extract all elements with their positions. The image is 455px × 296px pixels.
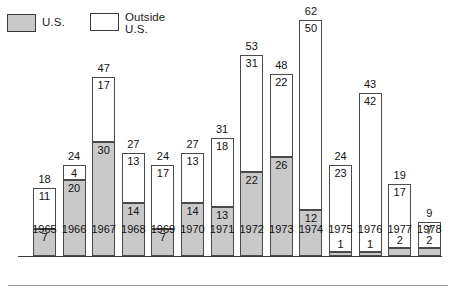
x-tick-label-1969: 1969 — [147, 224, 178, 235]
x-tick-label-1965: 1965 — [29, 224, 60, 235]
total-label-1977: 19 — [388, 170, 411, 181]
value-label-us-1968: 14 — [122, 206, 145, 217]
value-label-us-1978: 2 — [418, 235, 441, 246]
value-label-outside-us-1977: 17 — [388, 187, 411, 198]
segment-outside-us-1974 — [299, 20, 322, 210]
total-label-1968: 27 — [122, 139, 145, 150]
value-label-outside-us-1975: 23 — [329, 168, 352, 179]
x-tick-label-1968: 1968 — [118, 224, 149, 235]
value-label-us-1967: 30 — [92, 145, 115, 156]
x-tick-label-1971: 1971 — [207, 224, 238, 235]
value-label-outside-us-1966: 4 — [63, 168, 86, 179]
total-label-1967: 47 — [92, 63, 115, 74]
value-label-outside-us-1967: 17 — [92, 80, 115, 91]
value-label-us-1971: 13 — [211, 210, 234, 221]
value-label-outside-us-1973: 22 — [270, 77, 293, 88]
segment-us-1967 — [92, 142, 115, 256]
value-label-outside-us-1974: 50 — [299, 23, 322, 34]
value-label-us-1973: 26 — [270, 160, 293, 171]
value-label-us-1977: 2 — [388, 235, 411, 246]
x-tick-label-1966: 1966 — [59, 224, 90, 235]
total-label-1972: 53 — [240, 41, 263, 52]
value-label-us-1966: 20 — [63, 183, 86, 194]
total-label-1974: 62 — [299, 6, 322, 17]
total-label-1970: 27 — [181, 139, 204, 150]
value-label-us-1970: 14 — [181, 206, 204, 217]
segment-us-1977 — [388, 248, 411, 256]
x-tick-label-1976: 1976 — [355, 224, 386, 235]
bar-1971 — [211, 138, 234, 256]
value-label-outside-us-1965: 11 — [33, 191, 56, 202]
value-label-outside-us-1968: 13 — [122, 156, 145, 167]
x-tick-label-1967: 1967 — [88, 224, 119, 235]
x-tick-label-1978: 1978 — [414, 224, 445, 235]
total-label-1978: 9 — [418, 208, 441, 219]
value-label-us-1976: 1 — [359, 239, 382, 250]
value-label-outside-us-1969: 17 — [151, 168, 174, 179]
total-label-1969: 24 — [151, 151, 174, 162]
total-label-1976: 43 — [359, 79, 382, 90]
x-axis-line — [18, 256, 442, 257]
x-tick-label-1975: 1975 — [325, 224, 356, 235]
total-label-1975: 24 — [329, 151, 352, 162]
stacked-bar-chart: U.S. Outside U.S. 7111819652042419663017… — [0, 0, 455, 296]
value-label-outside-us-1970: 13 — [181, 156, 204, 167]
x-tick-label-1974: 1974 — [295, 224, 326, 235]
value-label-outside-us-1972: 31 — [240, 58, 263, 69]
x-tick-label-1977: 1977 — [384, 224, 415, 235]
x-tick-label-1970: 1970 — [177, 224, 208, 235]
segment-outside-us-1972 — [240, 55, 263, 173]
x-tick-label-1973: 1973 — [266, 224, 297, 235]
value-label-outside-us-1971: 18 — [211, 141, 234, 152]
footer-rule — [8, 285, 448, 286]
plot-area: 7111819652042419663017471967141327196871… — [0, 0, 455, 296]
x-tick-label-1972: 1972 — [236, 224, 267, 235]
segment-us-1973 — [270, 157, 293, 256]
total-label-1965: 18 — [33, 174, 56, 185]
value-label-us-1972: 22 — [240, 175, 263, 186]
total-label-1971: 31 — [211, 124, 234, 135]
total-label-1966: 24 — [63, 151, 86, 162]
value-label-outside-us-1976: 42 — [359, 96, 382, 107]
value-label-us-1975: 1 — [329, 239, 352, 250]
total-label-1973: 48 — [270, 60, 293, 71]
segment-us-1978 — [418, 248, 441, 256]
